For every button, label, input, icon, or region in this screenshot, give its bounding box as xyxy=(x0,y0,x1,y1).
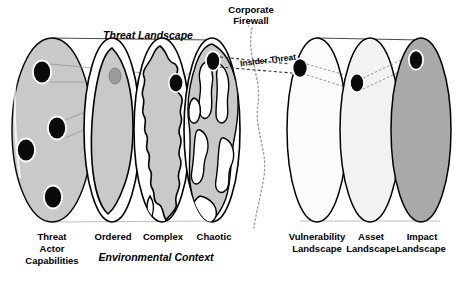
ellipse-complex-landscape[interactable] xyxy=(134,38,190,222)
caption-chaotic: Chaotic xyxy=(183,231,245,242)
ellipse-vulnerability-landscape[interactable] xyxy=(287,38,347,222)
label-corporate-firewall-line2: Firewall xyxy=(206,15,296,26)
title-environmental-context: Environmental Context xyxy=(86,252,226,263)
threat-dot-4 xyxy=(43,185,63,210)
diagram-canvas: Threat Landscape Environmental Context C… xyxy=(0,0,456,284)
ellipse-threat-actor-capabilities[interactable] xyxy=(12,38,92,222)
asset-dot xyxy=(349,73,365,93)
threat-dot-1 xyxy=(32,60,52,85)
threat-dot-2 xyxy=(47,116,67,141)
caption-impact-line1: Impact xyxy=(388,231,456,242)
caption-threat-actor-line2: Actor xyxy=(12,243,92,254)
ellipse-impact-landscape[interactable] xyxy=(391,38,451,222)
title-threat-landscape: Threat Landscape xyxy=(78,30,218,41)
impact-dot xyxy=(408,50,424,71)
threat-dot-3 xyxy=(16,138,36,163)
chaotic-dot xyxy=(205,51,221,72)
caption-impact-line2: Landscape xyxy=(386,243,456,254)
caption-threat-actor-line3: Capabilities xyxy=(6,255,98,266)
ordered-dot xyxy=(109,68,121,84)
label-corporate-firewall-line1: Corporate xyxy=(206,4,296,15)
ellipse-ordered-landscape[interactable] xyxy=(84,38,140,222)
complex-dot xyxy=(168,73,184,93)
caption-threat-actor-line1: Threat xyxy=(12,231,92,242)
